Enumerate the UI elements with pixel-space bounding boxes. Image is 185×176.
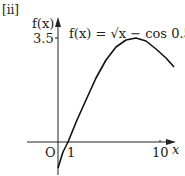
plot-area [0, 0, 185, 176]
function-curve [58, 38, 174, 168]
x-axis-arrow-icon [166, 139, 176, 145]
y-axis-arrow-icon [55, 17, 61, 27]
